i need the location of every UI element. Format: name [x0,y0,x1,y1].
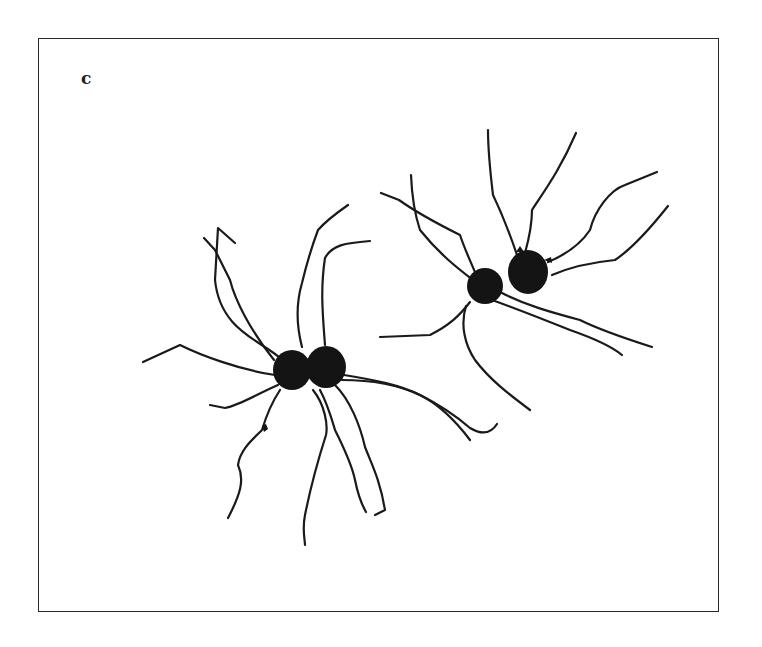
cell-body [467,268,503,304]
right-cell-pair [380,130,668,410]
cell-body [508,250,548,294]
cell-drawing [0,0,762,647]
cell-body [273,350,311,390]
cell-body [306,346,346,388]
